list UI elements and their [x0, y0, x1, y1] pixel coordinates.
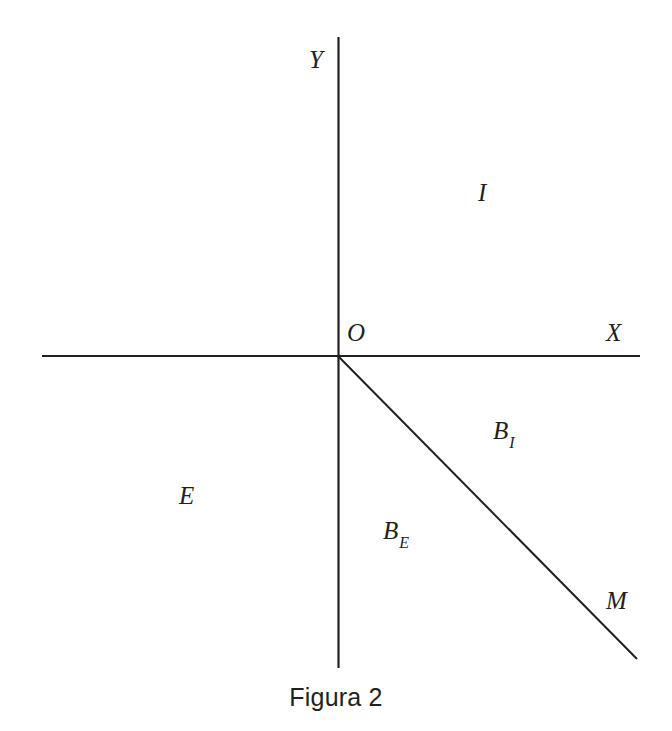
region-label-b-sub-e: BE	[383, 518, 408, 546]
line-label-m: M	[606, 588, 627, 613]
region-label-b-sub-i-base: B	[493, 417, 508, 444]
region-label-b-sub-e-base: B	[383, 517, 398, 544]
origin-label: O	[347, 320, 365, 345]
x-axis-label: X	[606, 320, 621, 345]
region-label-b-sub-i: BI	[493, 418, 514, 446]
coordinate-diagram	[0, 0, 672, 731]
region-label-i: I	[478, 180, 486, 205]
region-label-e: E	[179, 483, 194, 508]
y-axis-label: Y	[309, 47, 323, 72]
figure-container: Y X O I E M BI BE Figura 2	[0, 0, 672, 731]
line-m-segment	[338, 356, 637, 659]
region-label-b-sub-e-subscript: E	[399, 534, 409, 551]
region-label-b-sub-i-subscript: I	[509, 434, 514, 451]
figure-caption: Figura 2	[0, 683, 672, 712]
